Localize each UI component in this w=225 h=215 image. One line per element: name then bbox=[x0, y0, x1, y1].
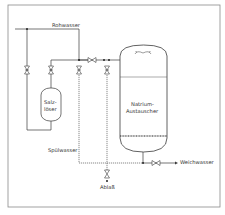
ablass-arrow-icon bbox=[106, 180, 108, 182]
valve-ablass[interactable] bbox=[105, 170, 110, 178]
valve-salzloeser[interactable] bbox=[49, 66, 54, 74]
valve-weichwasser[interactable] bbox=[152, 161, 160, 166]
ablass-label: Ablaß bbox=[100, 185, 115, 190]
rohwasser-label: Rohwasser bbox=[52, 23, 80, 28]
valve-ablass-upper[interactable] bbox=[105, 66, 110, 74]
valve-left-bypass[interactable] bbox=[25, 66, 30, 74]
natrium-label-2: Austauscher bbox=[126, 109, 158, 114]
salzloeser-label-2: löser bbox=[44, 107, 57, 112]
weichwasser-arrow-icon bbox=[175, 162, 178, 165]
weichwasser-label: Weichwasser bbox=[180, 160, 214, 165]
process-diagram bbox=[0, 0, 225, 215]
diagram-frame bbox=[8, 5, 220, 207]
valve-header[interactable] bbox=[88, 58, 96, 63]
natrium-label-1: Natrium- bbox=[131, 102, 154, 107]
spuelwasser-label: Spülwasser bbox=[48, 148, 77, 153]
salzloeser-label-1: Salz- bbox=[44, 100, 57, 105]
valve-spuelwasser[interactable] bbox=[77, 66, 82, 74]
